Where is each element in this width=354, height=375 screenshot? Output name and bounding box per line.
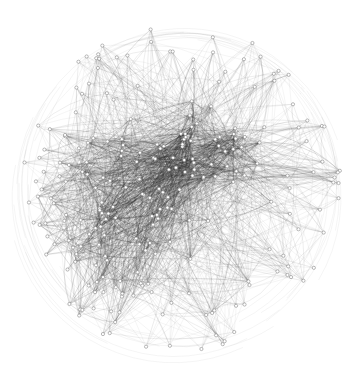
graph-canvas	[0, 0, 354, 375]
network-graph	[0, 0, 354, 375]
